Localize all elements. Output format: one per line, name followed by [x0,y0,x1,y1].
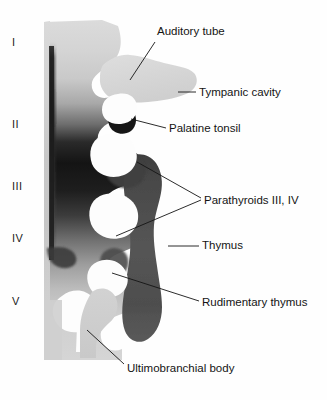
label-thymus: Thymus [202,239,243,251]
leader-palatine-tonsil [131,119,166,128]
pouch-numeral-iv: IV [12,232,23,244]
pouch-numeral-i: I [12,36,16,48]
label-parathyroids-3-4: Parathyroids III, IV [204,194,299,206]
label-tympanic-cavity: Tympanic cavity [199,86,281,98]
pouch-numeral-iii: III [12,180,23,192]
pharyngeal-pouch-derivatives-figure: I II III IV V Auditory tube Tympanic cav… [0,0,327,400]
label-ultimobranchial-body: Ultimobranchial body [127,362,234,374]
pouch-numeral-ii: II [12,118,19,130]
label-palatine-tonsil: Palatine tonsil [169,122,241,134]
inner-dark-bar [49,46,54,260]
pouch-numeral-v: V [12,295,20,307]
label-auditory-tube: Auditory tube [157,25,225,37]
label-rudimentary-thymus: Rudimentary thymus [202,296,307,308]
